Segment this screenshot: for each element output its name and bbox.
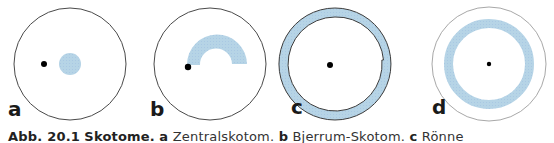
panel-label-b: b (150, 97, 164, 121)
figure-caption: Abb. 20.1 Skotome. a Zentralskotom. b Bj… (8, 129, 464, 143)
bjerrum-scotoma (187, 34, 247, 65)
panel-label-a: a (8, 97, 22, 121)
caption-part-c-text: Rönne (422, 129, 464, 143)
panel-d: d (432, 7, 546, 121)
caption-title: Skotome. (84, 129, 155, 143)
panel-c: c (279, 8, 391, 120)
caption-part-c-label: c (410, 129, 418, 143)
panel-b: b (150, 8, 266, 121)
caption-part-b-label: b (279, 129, 289, 143)
panel-label-c: c (291, 95, 303, 119)
panel-a: a (8, 8, 126, 121)
fixation-dot (487, 62, 491, 66)
caption-part-b-text: Bjerrum-Skotom. (292, 129, 405, 143)
fixation-dot (327, 62, 333, 68)
central-scotoma (59, 53, 81, 75)
fixation-dot (185, 64, 191, 70)
scotoma-figure: a b c d (0, 0, 554, 143)
panel-label-d: d (432, 95, 446, 119)
caption-part-a-label: a (159, 129, 168, 143)
caption-part-a-text: Zentralskotom. (173, 129, 275, 143)
caption-figure-number: Abb. 20.1 (8, 129, 80, 143)
visual-field-outline (154, 8, 266, 120)
fixation-dot (41, 61, 47, 67)
